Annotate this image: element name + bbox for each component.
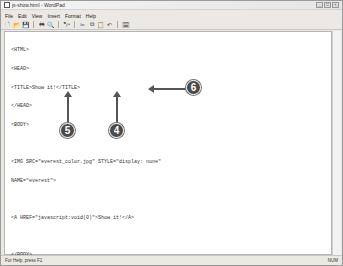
toolbar: 🗋 📂 💾 🖶 🔍 🔭 ✂ ⧉ 📋 ↶ 🗓	[1, 20, 342, 30]
callout-4-badge: 4	[109, 123, 124, 138]
document-text[interactable]: <HTML> <HEAD> <TITLE>Show it!</TITLE> </…	[11, 35, 161, 266]
toolbar-separator	[74, 21, 75, 28]
open-icon[interactable]: 📂	[13, 21, 20, 28]
toolbar-separator	[33, 21, 34, 28]
status-help-text: For Help, press F1	[5, 258, 42, 263]
cut-icon[interactable]: ✂	[79, 21, 86, 28]
menu-view[interactable]: View	[32, 13, 43, 19]
status-num-lock: NUM	[328, 258, 338, 263]
print-icon[interactable]: 🖶	[38, 21, 45, 28]
vertical-scrollbar[interactable]	[332, 31, 341, 255]
code-line: <HTML>	[11, 47, 161, 53]
copy-icon[interactable]: ⧉	[88, 21, 95, 28]
code-line: <HEAD>	[11, 66, 161, 72]
code-line	[11, 196, 161, 202]
status-bar: For Help, press F1 NUM	[1, 255, 342, 265]
code-line: NAME="everest">	[11, 178, 161, 184]
new-icon[interactable]: 🗋	[4, 21, 11, 28]
undo-icon[interactable]: ↶	[106, 21, 113, 28]
save-icon[interactable]: 💾	[22, 21, 29, 28]
close-button[interactable]: ×	[332, 2, 339, 8]
callout-6-badge: 6	[186, 80, 201, 95]
menu-help[interactable]: Help	[86, 13, 96, 19]
wordpad-app-icon[interactable]	[4, 2, 10, 8]
code-line: <IMG SRC="everest_color.jpg" STYLE="disp…	[11, 159, 161, 165]
title-bar[interactable]: js-show.html - WordPad _ □ ×	[1, 1, 342, 10]
window-title: js-show.html - WordPad	[12, 2, 65, 8]
callout-5-badge: 5	[60, 123, 75, 138]
menu-edit[interactable]: Edit	[18, 13, 27, 19]
paste-icon[interactable]: 📋	[97, 21, 104, 28]
callout-4-arrow	[116, 96, 118, 124]
minimize-button[interactable]: _	[316, 2, 323, 8]
document-editor[interactable]: <HTML> <HEAD> <TITLE>Show it!</TITLE> </…	[4, 31, 332, 255]
callout-6-arrow	[153, 88, 188, 90]
menu-insert[interactable]: Insert	[47, 13, 60, 19]
window-controls: _ □ ×	[316, 2, 339, 8]
menu-bar: File Edit View Insert Format Help	[1, 11, 342, 20]
callout-5-arrow	[67, 96, 69, 124]
insert-datetime-icon[interactable]: 🗓	[122, 21, 129, 28]
toolbar-separator	[58, 21, 59, 28]
print-preview-icon[interactable]: 🔍	[47, 21, 54, 28]
code-line	[11, 140, 161, 146]
code-line: </HEAD>	[11, 103, 161, 109]
menu-file[interactable]: File	[5, 13, 13, 19]
code-line	[11, 233, 161, 239]
wordpad-window: js-show.html - WordPad _ □ × File Edit V…	[0, 0, 343, 266]
code-line: <BODY>	[11, 122, 161, 128]
code-line: <A HREF="javascript:void(0)">Show it!</A…	[11, 215, 161, 221]
maximize-button[interactable]: □	[324, 2, 331, 8]
code-line: <TITLE>Show it!</TITLE>	[11, 85, 161, 91]
menu-format[interactable]: Format	[65, 13, 81, 19]
toolbar-separator	[117, 21, 118, 28]
find-icon[interactable]: 🔭	[63, 21, 70, 28]
